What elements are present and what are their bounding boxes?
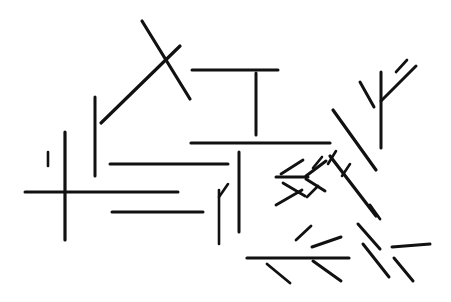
diagonal-y-right-arm: [381, 66, 416, 101]
long-diagonal-lower-right: [330, 156, 376, 216]
diagonal-bottom-mid: [296, 226, 311, 240]
diagonal-right-lower: [394, 258, 413, 281]
diagonal-cluster-f: [342, 164, 350, 176]
diagonal-bottom-left-tick: [267, 264, 290, 283]
drawing-canvas: [0, 0, 451, 302]
diagonal-roof-left: [101, 46, 180, 123]
diagonal-cluster-a: [281, 160, 303, 174]
diagonal-cluster-c: [276, 190, 302, 205]
arrow-lower-head-top: [312, 237, 341, 247]
arrow-lower-head-bottom: [313, 261, 341, 281]
diagonal-far-right-top: [396, 60, 407, 72]
horizontal-right-small: [392, 244, 430, 247]
tick-diagonal-center: [219, 184, 228, 197]
line-art-svg: [0, 0, 451, 302]
diagonal-cluster-g: [307, 186, 318, 197]
diagonal-right-fan-b: [363, 244, 389, 277]
diagonal-y-left-arm: [360, 82, 374, 107]
long-diagonal-upper-right: [333, 110, 376, 170]
diagonal-right-fan-a: [358, 224, 380, 249]
